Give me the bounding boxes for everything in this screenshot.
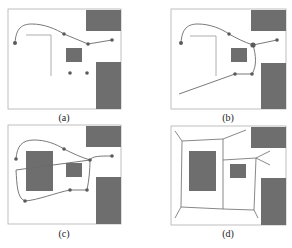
panel-a-label: (a) — [44, 112, 84, 123]
panel-a — [8, 9, 121, 109]
waypoint — [250, 42, 255, 47]
obstacle-large — [26, 151, 53, 191]
waypoint — [85, 71, 89, 75]
waypoint — [250, 72, 254, 76]
figure-canvas — [0, 0, 292, 248]
obstacle-bottom-right — [96, 62, 121, 109]
waypoint — [62, 32, 66, 36]
panel-c-label: (c) — [44, 228, 84, 239]
waypoint — [68, 71, 72, 75]
obstacle-bottom-right — [261, 63, 286, 109]
waypoint — [110, 154, 114, 158]
panel-d — [171, 126, 286, 225]
waypoint — [85, 188, 89, 192]
obstacle-top-right — [86, 10, 121, 31]
waypoint — [275, 38, 279, 42]
waypoint — [62, 147, 66, 151]
obstacle-large — [189, 151, 216, 191]
obstacle-center — [66, 163, 82, 177]
obstacle-top-right — [251, 10, 286, 31]
waypoint — [88, 158, 92, 162]
waypoint — [68, 188, 72, 192]
panel-c — [8, 125, 121, 224]
obstacle-center — [231, 48, 247, 62]
waypoint — [227, 32, 231, 36]
obstacle-center — [66, 48, 82, 62]
waypoint — [179, 41, 183, 45]
waypoint — [14, 157, 18, 161]
waypoint — [86, 42, 90, 46]
panel-b-label: (b) — [208, 112, 248, 123]
obstacle-bottom-right — [261, 178, 286, 225]
obstacle-center — [230, 164, 246, 178]
obstacle-top-right — [251, 127, 286, 148]
waypoint — [233, 72, 237, 76]
panel-d-label: (d) — [208, 228, 248, 239]
obstacle-bottom-right — [96, 177, 121, 224]
waypoint — [110, 38, 114, 42]
panel-b — [171, 9, 286, 109]
waypoint — [13, 41, 17, 45]
waypoint — [23, 199, 27, 203]
obstacle-top-right — [86, 126, 121, 147]
